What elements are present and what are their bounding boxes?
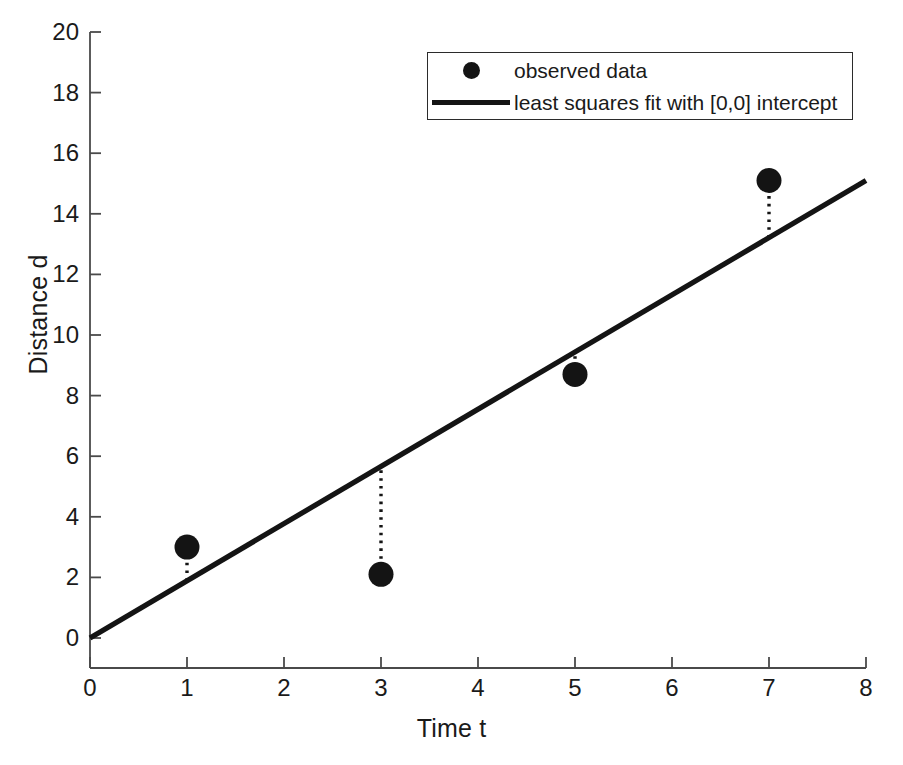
x-tick-label: 1 [162, 676, 212, 700]
x-tick-label: 8 [841, 676, 891, 700]
x-tick-label: 7 [744, 676, 794, 700]
y-tick-label: 16 [19, 141, 79, 165]
legend-marker-solid-line-icon [428, 100, 514, 105]
x-tick-label: 4 [453, 676, 503, 700]
data-point [563, 362, 588, 387]
y-tick-label: 6 [19, 444, 79, 468]
y-tick-label: 0 [19, 626, 79, 650]
legend-entry-observed-data: observed data [428, 53, 852, 87]
data-point [175, 535, 200, 560]
legend-label-observed-data: observed data [514, 60, 647, 81]
least-squares-fit-line [90, 180, 866, 638]
observed-data-points [175, 168, 782, 587]
legend-label-least-squares-fit: least squares fit with [0,0] intercept [514, 92, 837, 113]
legend-marker-filled-circle-icon [428, 62, 514, 79]
y-tick-label: 2 [19, 565, 79, 589]
legend-entry-least-squares-fit: least squares fit with [0,0] intercept [428, 85, 852, 119]
x-tick-label: 3 [356, 676, 406, 700]
x-axis-title: Time t [0, 714, 903, 743]
legend: observed data least squares fit with [0,… [427, 52, 853, 120]
x-axis-ticks [90, 657, 866, 668]
data-point [369, 562, 394, 587]
y-axis-title: Distance d [24, 215, 53, 415]
x-tick-label: 5 [550, 676, 600, 700]
y-tick-label: 18 [19, 81, 79, 105]
figure-scatter-plot: 02468101214161820 012345678 Distance d T… [0, 0, 903, 765]
y-tick-label: 4 [19, 505, 79, 529]
residual-lines [187, 180, 769, 580]
x-tick-label: 6 [647, 676, 697, 700]
y-axis-ticks [90, 32, 101, 638]
x-tick-label: 2 [259, 676, 309, 700]
data-point [757, 168, 782, 193]
y-tick-label: 20 [19, 20, 79, 44]
x-tick-label: 0 [65, 676, 115, 700]
